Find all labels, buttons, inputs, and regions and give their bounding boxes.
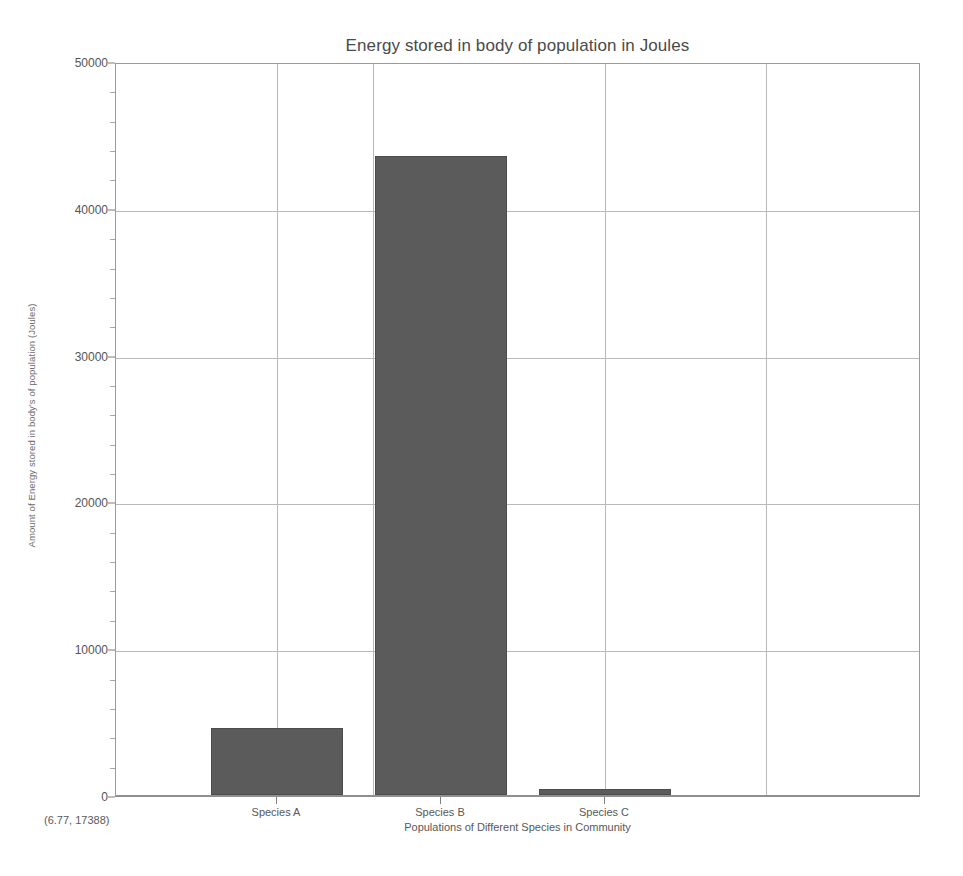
gridline-vertical	[373, 64, 374, 795]
bar[interactable]	[539, 789, 671, 795]
plot-area	[115, 63, 920, 797]
y-axis-tick-mark	[108, 797, 115, 798]
x-axis-tick-mark	[276, 797, 277, 804]
gridline-vertical	[277, 64, 278, 795]
y-axis-tick-mark	[108, 356, 115, 357]
x-axis-tick-mark	[440, 797, 441, 804]
y-axis-tick-mark	[108, 63, 115, 64]
y-axis-tick-mark	[108, 209, 115, 210]
y-axis-tick-mark	[108, 650, 115, 651]
gridline-horizontal	[116, 211, 919, 212]
bar[interactable]	[375, 156, 507, 795]
x-axis-tick-label: Species C	[579, 806, 629, 818]
coordinate-readout: (6.77, 17388)	[44, 814, 109, 826]
x-axis-tick-mark	[604, 797, 605, 804]
bar-chart-figure: Energy stored in body of population in J…	[0, 0, 963, 876]
gridline-vertical	[766, 64, 767, 795]
gridline-horizontal	[116, 504, 919, 505]
x-axis-label: Populations of Different Species in Comm…	[115, 821, 920, 833]
chart-title: Energy stored in body of population in J…	[115, 36, 920, 56]
y-axis-tick-mark	[108, 503, 115, 504]
x-axis-tick-label: Species A	[252, 806, 301, 818]
gridline-horizontal	[116, 358, 919, 359]
gridline-vertical	[605, 64, 606, 795]
y-axis-tick-marks	[0, 63, 115, 797]
gridline-horizontal	[116, 651, 919, 652]
bar[interactable]	[211, 728, 343, 795]
x-axis-tick-label: Species B	[415, 806, 465, 818]
